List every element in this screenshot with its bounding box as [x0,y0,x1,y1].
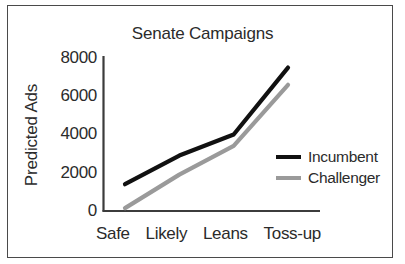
series-line-incumbent [125,68,288,185]
line-chart: Senate Campaigns Predicted Ads 8000 6000… [0,0,405,264]
x-tick-label-safe: Safe [96,224,130,244]
chart-legend: Incumbent Challenger [276,146,380,188]
x-axis-tick-labels: Safe Likely Leans Toss-up [96,224,321,244]
legend-item-incumbent: Incumbent [276,146,380,167]
x-tick-label-toss-up: Toss-up [264,224,321,244]
legend-swatch-challenger [276,176,301,180]
legend-label-challenger: Challenger [308,169,380,187]
chart-screenshot: Senate Campaigns Predicted Ads 8000 6000… [0,0,405,264]
x-tick-label-likely: Likely [146,224,188,244]
legend-label-incumbent: Incumbent [308,148,378,166]
legend-swatch-incumbent [276,155,301,159]
legend-item-challenger: Challenger [276,167,380,188]
x-tick-label-leans: Leans [203,224,248,244]
